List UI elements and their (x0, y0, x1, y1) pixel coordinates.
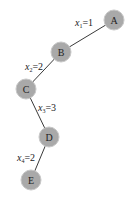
svg-text:A: A (110, 15, 118, 26)
svg-text:D: D (45, 132, 52, 143)
svg-text:E: E (28, 175, 34, 186)
tree-diagram: x1=1 x2=2 x3=3 x4=2 A B C D E (0, 0, 139, 199)
svg-text:C: C (23, 84, 30, 95)
edge-label-x3: x3=3 (37, 102, 56, 114)
edge-label-x1: x1=1 (74, 17, 93, 29)
edge-label-x4: x4=2 (16, 152, 35, 164)
node-b: B (51, 42, 71, 62)
node-d: D (39, 127, 59, 147)
edge-label-x2: x2=2 (24, 61, 43, 73)
node-c: C (16, 79, 36, 99)
node-e: E (21, 170, 41, 190)
node-a: A (104, 10, 124, 30)
svg-text:B: B (58, 47, 65, 58)
